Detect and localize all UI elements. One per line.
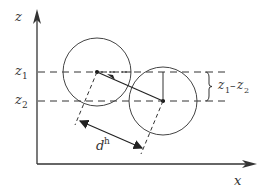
svg-text:2: 2 [244, 86, 249, 95]
height-difference-label: z 1 – z 2 [217, 78, 249, 95]
svg-text:2: 2 [22, 100, 28, 110]
z1-label: z 1 [14, 63, 28, 81]
svg-text:z: z [14, 92, 22, 107]
svg-text:z: z [236, 78, 244, 92]
center-connector-line [97, 72, 163, 101]
height-brace-icon [205, 72, 212, 101]
svg-text:h: h [104, 136, 110, 146]
distance-label: d h [96, 136, 110, 153]
two-particle-diagram: z x z 1 z 2 d h z 1 – z 2 [0, 0, 270, 189]
svg-text:z: z [217, 78, 225, 92]
distance-arrow [80, 121, 142, 148]
x-axis [37, 160, 257, 168]
x-axis-label: x [234, 173, 242, 188]
perp-line-1 [75, 72, 97, 125]
svg-text:–: – [230, 79, 236, 92]
svg-text:1: 1 [22, 71, 28, 81]
z-axis [33, 9, 41, 164]
z-axis-label: z [14, 9, 22, 24]
perp-line-2 [141, 101, 163, 154]
svg-text:z: z [14, 63, 22, 78]
z2-label: z 2 [14, 92, 28, 110]
